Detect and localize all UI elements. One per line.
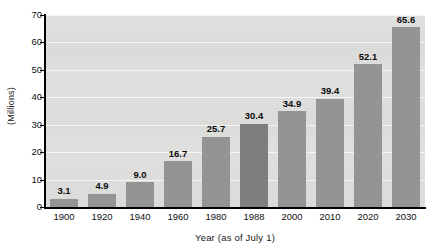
- y-axis-tick-label: 50: [18, 65, 42, 75]
- x-axis-tick-label: 2020: [357, 212, 378, 222]
- x-axis-tick-label: 2030: [395, 212, 416, 222]
- y-axis-tick-label: 10: [18, 175, 42, 185]
- bar-group[interactable]: 30.4: [240, 15, 268, 207]
- x-axis-tick-label: 2010: [319, 212, 340, 222]
- x-axis-line: [44, 207, 426, 209]
- bar[interactable]: [354, 64, 382, 207]
- bar-value-label: 65.6: [397, 15, 416, 25]
- x-axis-tick-label: 1988: [243, 212, 264, 222]
- x-axis-tick-labels: 1900192019401960198019882000201020202030: [45, 212, 425, 226]
- bar-value-label: 34.9: [283, 99, 302, 109]
- bar-group[interactable]: 34.9: [278, 15, 306, 207]
- y-axis-tick-label: 30: [18, 120, 42, 130]
- bar[interactable]: [164, 161, 192, 207]
- bar-value-label: 25.7: [207, 124, 226, 134]
- bar-value-label: 4.9: [95, 181, 108, 191]
- bar-group[interactable]: 65.6: [392, 15, 420, 207]
- bar[interactable]: [316, 99, 344, 207]
- y-axis-tick-label: 20: [18, 147, 42, 157]
- bar-group[interactable]: 25.7: [202, 15, 230, 207]
- x-axis-tick-label: 1920: [91, 212, 112, 222]
- bar-group[interactable]: 39.4: [316, 15, 344, 207]
- bar-group[interactable]: 4.9: [88, 15, 116, 207]
- bar-value-label: 16.7: [169, 149, 188, 159]
- bar-group[interactable]: 9.0: [126, 15, 154, 207]
- y-axis-title-label: (Millions): [6, 87, 16, 125]
- bar[interactable]: [392, 27, 420, 207]
- bar[interactable]: [202, 137, 230, 207]
- x-axis-tick-label: 1960: [167, 212, 188, 222]
- bar-group[interactable]: 3.1: [50, 15, 78, 207]
- y-axis-tick-label: 0: [18, 202, 42, 212]
- bar-value-label: 3.1: [57, 186, 70, 196]
- y-axis-tick-label: 60: [18, 38, 42, 48]
- bar-group[interactable]: 16.7: [164, 15, 192, 207]
- x-axis-title: Year (as of July 1): [45, 232, 425, 243]
- bar-value-label: 30.4: [245, 111, 264, 121]
- x-axis-title-label: Year (as of July 1): [195, 232, 275, 243]
- bar-group[interactable]: 52.1: [354, 15, 382, 207]
- bar[interactable]: [126, 182, 154, 207]
- x-axis-tick-label: 2000: [281, 212, 302, 222]
- bar[interactable]: [240, 124, 268, 207]
- y-axis-tick-label: 70: [18, 10, 42, 20]
- y-axis-tick-label: 40: [18, 93, 42, 103]
- y-axis-tick-labels: 010203040506070: [18, 15, 42, 207]
- bar-value-label: 52.1: [359, 52, 378, 62]
- y-axis-tick-mark: [40, 207, 45, 208]
- x-axis-tick-label: 1940: [129, 212, 150, 222]
- bar[interactable]: [278, 111, 306, 207]
- x-axis-tick-label: 1980: [205, 212, 226, 222]
- bar-value-label: 39.4: [321, 86, 340, 96]
- bar-value-label: 9.0: [133, 170, 146, 180]
- bar-chart-figure: (Millions) 010203040506070 3.14.99.016.7…: [0, 0, 437, 251]
- bar[interactable]: [50, 199, 78, 208]
- bar[interactable]: [88, 194, 116, 207]
- bars-layer: 3.14.99.016.725.730.434.939.452.165.6: [45, 15, 425, 207]
- x-axis-tick-label: 1900: [53, 212, 74, 222]
